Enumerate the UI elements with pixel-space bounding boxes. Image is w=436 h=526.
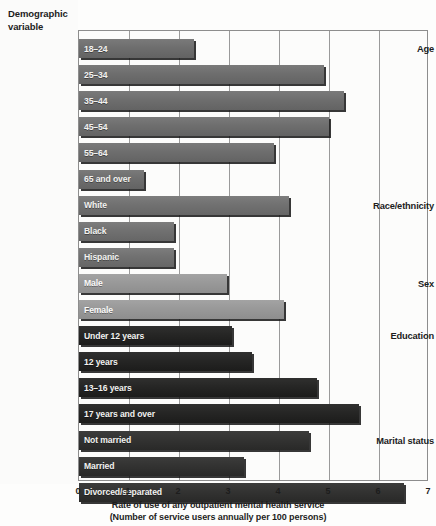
bar-label: 55–64 xyxy=(84,148,107,158)
bar-row[interactable]: 13–16 years xyxy=(79,378,317,397)
x-tick-2: 2 xyxy=(175,486,180,496)
group-label-race-ethnicity: Race/ethnicity xyxy=(358,201,434,211)
x-tick-1: 1 xyxy=(125,486,130,496)
bar-label: White xyxy=(84,200,107,210)
bar-row[interactable]: 35–44 xyxy=(79,91,344,110)
x-tick-4: 4 xyxy=(275,486,280,496)
bar-13-16-years[interactable]: 13–16 years xyxy=(79,378,317,397)
x-tick-6: 6 xyxy=(375,486,380,496)
bar-under-12-years[interactable]: Under 12 years xyxy=(79,326,232,345)
bar-row[interactable]: 25–34 xyxy=(79,65,324,84)
group-label-age: Age xyxy=(358,44,434,54)
bar-label: Hispanic xyxy=(84,252,119,262)
bar-label: 35–44 xyxy=(84,96,107,106)
bar-18-24[interactable]: 18–24 xyxy=(79,39,194,58)
x-tick-7: 7 xyxy=(425,486,430,496)
column-header-line1: Demographic xyxy=(8,8,78,21)
bar-row[interactable]: Male xyxy=(79,274,227,293)
bar-17-years-and-over[interactable]: 17 years and over xyxy=(79,404,359,423)
bar-label: Under 12 years xyxy=(84,331,144,341)
bar-label: Black xyxy=(84,226,106,236)
bar-not-married[interactable]: Not married xyxy=(79,431,309,450)
bar-row[interactable]: 17 years and over xyxy=(79,404,359,423)
bar-25-34[interactable]: 25–34 xyxy=(79,65,324,84)
bar-55-64[interactable]: 55–64 xyxy=(79,143,274,162)
bar-label: 25–34 xyxy=(84,70,107,80)
bar-black[interactable]: Black xyxy=(79,222,174,241)
column-header: Demographic variable xyxy=(8,8,78,33)
bar-row[interactable]: Under 12 years xyxy=(79,326,232,345)
bar-row[interactable]: Black xyxy=(79,222,174,241)
x-tick-0: 0 xyxy=(75,486,80,496)
bar-label: 17 years and over xyxy=(84,409,155,419)
x-axis-title-line2: (Number of service users annually per 10… xyxy=(0,511,436,524)
bar-male[interactable]: Male xyxy=(79,274,227,293)
x-tick-5: 5 xyxy=(325,486,330,496)
bar-row[interactable]: White xyxy=(79,196,289,215)
bar-row[interactable]: Female xyxy=(79,300,284,319)
bar-label: Female xyxy=(84,305,113,315)
group-label-marital-status: Marital status xyxy=(358,436,434,446)
group-label-education: Education xyxy=(358,331,434,341)
bar-label: 18–24 xyxy=(84,44,107,54)
bar-row[interactable]: Not married xyxy=(79,431,309,450)
bar-row[interactable]: Hispanic xyxy=(79,248,174,267)
bar-label: 12 years xyxy=(84,357,118,367)
bar-label: Not married xyxy=(84,435,131,445)
chart-root: Demographic variable Age18–2425–3435–444… xyxy=(0,0,436,526)
bar-hispanic[interactable]: Hispanic xyxy=(79,248,174,267)
bar-65-and-over[interactable]: 65 and over xyxy=(79,170,144,189)
bar-label: Divorced/separated xyxy=(84,487,162,497)
bar-row[interactable]: 12 years xyxy=(79,352,252,371)
group-label-sex: Sex xyxy=(358,279,434,289)
bar-white[interactable]: White xyxy=(79,196,289,215)
bar-12-years[interactable]: 12 years xyxy=(79,352,252,371)
x-axis-title-line1: Rate of use of any outpatient mental hea… xyxy=(0,499,436,512)
x-tick-3: 3 xyxy=(225,486,230,496)
bar-45-54[interactable]: 45–54 xyxy=(79,117,329,136)
bar-label: Married xyxy=(84,461,114,471)
bar-35-44[interactable]: 35–44 xyxy=(79,91,344,110)
bar-female[interactable]: Female xyxy=(79,300,284,319)
bar-row[interactable]: 45–54 xyxy=(79,117,329,136)
bar-row[interactable]: 55–64 xyxy=(79,143,274,162)
bar-row[interactable]: 65 and over xyxy=(79,170,144,189)
bar-row[interactable]: Married xyxy=(79,457,244,476)
bar-married[interactable]: Married xyxy=(79,457,244,476)
bar-label: 13–16 years xyxy=(84,383,132,393)
bar-row[interactable]: 18–24 xyxy=(79,39,194,58)
gridline-6 xyxy=(379,31,380,480)
bar-label: 45–54 xyxy=(84,122,107,132)
demographic-label-column: Demographic variable xyxy=(0,0,78,484)
bar-label: 65 and over xyxy=(84,174,131,184)
column-header-line2: variable xyxy=(8,21,78,34)
bar-label: Male xyxy=(84,278,103,288)
